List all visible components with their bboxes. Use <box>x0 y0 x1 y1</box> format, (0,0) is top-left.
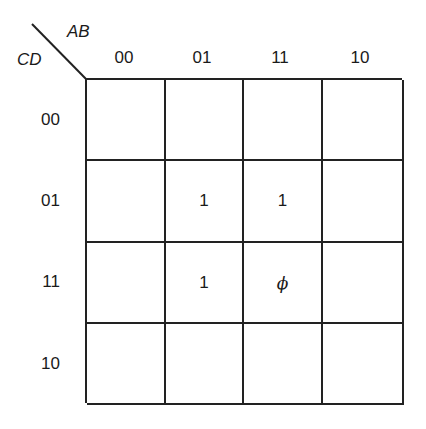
cell-cd01-ab10 <box>323 161 404 243</box>
col-label-01: 01 <box>182 48 222 68</box>
row-label-11: 11 <box>20 272 60 292</box>
col-label-00: 00 <box>104 48 144 68</box>
cell-cd01-ab00 <box>87 161 166 243</box>
cell-cd01-ab11: 1 <box>244 161 323 243</box>
row-label-10: 10 <box>20 354 60 374</box>
row-label-00: 00 <box>20 110 60 130</box>
cell-cd11-ab10 <box>323 243 404 324</box>
cell-cd11-ab00 <box>87 243 166 324</box>
cell-cd10-ab10 <box>323 324 404 405</box>
col-label-11: 11 <box>260 48 300 68</box>
col-variable-label: AB <box>67 22 90 42</box>
cell-cd10-ab01 <box>166 324 244 405</box>
cell-cd00-ab11 <box>244 80 323 161</box>
cell-cd00-ab10 <box>323 80 404 161</box>
cell-cd00-ab00 <box>87 80 166 161</box>
cell-cd10-ab00 <box>87 324 166 405</box>
cell-cd11-ab11-dont-care: ϕ <box>244 243 323 324</box>
karnaugh-map-grid: 1 1 1 ϕ <box>85 78 402 403</box>
cell-cd11-ab01: 1 <box>166 243 244 324</box>
row-variable-label: CD <box>17 50 42 70</box>
row-label-01: 01 <box>20 191 60 211</box>
col-label-10: 10 <box>340 48 380 68</box>
cell-cd00-ab01 <box>166 80 244 161</box>
cell-cd10-ab11 <box>244 324 323 405</box>
cell-cd01-ab01: 1 <box>166 161 244 243</box>
